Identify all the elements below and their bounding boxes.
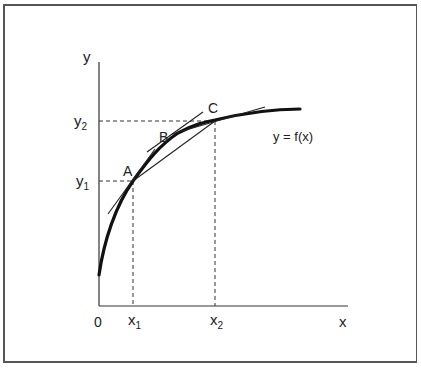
function-curve: [99, 109, 300, 275]
y-axis-label: y: [83, 48, 91, 65]
origin-label: 0: [94, 314, 102, 330]
secant-ac: [133, 121, 215, 181]
point-c-label: C: [208, 100, 218, 116]
curve-label: y = f(x): [273, 129, 313, 144]
y2-label: y2: [74, 112, 88, 132]
point-a-label: A: [123, 163, 133, 179]
y1-label: y1: [76, 172, 90, 192]
function-diagram: y x 0 y2 y1 x1 x2 A B C y = f(x): [0, 0, 421, 372]
x-axis-label: x: [339, 313, 347, 330]
x2-label: x2: [210, 311, 224, 331]
point-b-label: B: [159, 129, 168, 145]
x1-label: x1: [128, 311, 142, 331]
tangent-b: [147, 112, 203, 152]
